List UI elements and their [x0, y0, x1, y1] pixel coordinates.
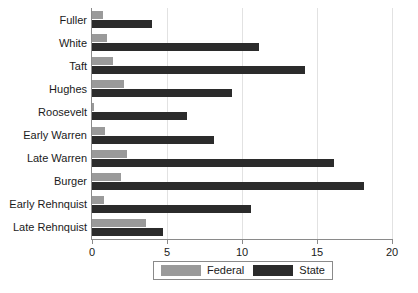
- x-axis-tick-label: 10: [222, 246, 262, 259]
- x-axis-tick: [317, 239, 318, 244]
- legend-label: Federal: [207, 265, 244, 276]
- x-axis-tick: [242, 239, 243, 244]
- legend-entry-state[interactable]: State: [253, 265, 325, 276]
- bar-chart: 05101520 FullerWhiteTaftHughesRooseveltE…: [0, 0, 418, 293]
- bar-state: [92, 20, 152, 28]
- legend-label: State: [299, 265, 325, 276]
- bar-federal: [92, 219, 146, 227]
- x-axis-tick-label: 5: [147, 246, 187, 259]
- plot-area: FullerWhiteTaftHughesRooseveltEarly Warr…: [92, 8, 392, 239]
- category-label: Early Warren: [23, 130, 87, 141]
- chart-row: Fuller: [92, 8, 392, 31]
- state-swatch: [253, 265, 293, 276]
- bar-state: [92, 66, 305, 74]
- bar-state: [92, 112, 187, 120]
- category-label: Taft: [69, 61, 87, 72]
- gridline: [392, 8, 393, 239]
- chart-row: Early Rehnquist: [92, 193, 392, 216]
- x-axis-tick-label: 15: [297, 246, 337, 259]
- bar-federal: [92, 150, 127, 158]
- chart-row: White: [92, 31, 392, 54]
- chart-row: Hughes: [92, 77, 392, 100]
- x-axis-tick-label: 0: [72, 246, 112, 259]
- chart-row: Roosevelt: [92, 100, 392, 123]
- bar-state: [92, 205, 251, 213]
- bar-federal: [92, 11, 103, 19]
- category-label: Late Rehnquist: [13, 222, 87, 233]
- bar-state: [92, 182, 364, 190]
- category-label: Early Rehnquist: [9, 199, 87, 210]
- bar-federal: [92, 173, 121, 181]
- bar-federal: [92, 34, 107, 42]
- category-label: Burger: [54, 176, 87, 187]
- x-axis-tick: [167, 239, 168, 244]
- x-axis-tick-label: 20: [372, 246, 412, 259]
- bar-state: [92, 136, 214, 144]
- category-label: White: [59, 38, 87, 49]
- bar-federal: [92, 80, 124, 88]
- bar-federal: [92, 57, 113, 65]
- category-label: Fuller: [59, 15, 87, 26]
- chart-row: Taft: [92, 54, 392, 77]
- bar-state: [92, 228, 163, 236]
- bar-federal: [92, 103, 94, 111]
- legend-entry-federal[interactable]: Federal: [161, 265, 244, 276]
- x-axis-tick: [92, 239, 93, 244]
- bar-state: [92, 89, 232, 97]
- chart-legend: FederalState: [153, 261, 333, 280]
- chart-row: Late Warren: [92, 147, 392, 170]
- category-label: Hughes: [49, 84, 87, 95]
- bar-federal: [92, 196, 104, 204]
- chart-row: Early Warren: [92, 124, 392, 147]
- chart-row: Late Rehnquist: [92, 216, 392, 239]
- federal-swatch: [161, 265, 201, 276]
- category-label: Late Warren: [27, 153, 87, 164]
- bar-federal: [92, 127, 105, 135]
- category-label: Roosevelt: [38, 107, 87, 118]
- x-axis-tick: [392, 239, 393, 244]
- bar-state: [92, 159, 334, 167]
- chart-row: Burger: [92, 170, 392, 193]
- bar-state: [92, 43, 259, 51]
